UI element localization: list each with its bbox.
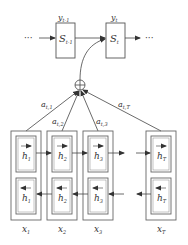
svg-text:h1: h1 xyxy=(22,193,31,204)
decoder: ··· St-1 yt-1 St yt ··· xyxy=(24,13,154,58)
input-label: xT xyxy=(157,224,166,235)
prev-output-label: yt-1 xyxy=(57,13,69,23)
svg-text:h2: h2 xyxy=(58,193,67,204)
encoder-column-T: hT hT xT xyxy=(146,131,176,235)
svg-text:hT: hT xyxy=(157,193,167,204)
sum-node xyxy=(75,80,85,90)
weight-label-1: at,1 xyxy=(41,100,53,110)
cur-output-label: yt xyxy=(110,13,119,23)
weight-label-3: at,3 xyxy=(96,117,108,127)
attention-diagram: ··· St-1 yt-1 St yt ··· at,1 at,2 at,3 a… xyxy=(0,0,188,245)
ellipsis-right: ··· xyxy=(145,33,154,43)
cur-state-label: St xyxy=(110,33,120,45)
weight-arrow-T xyxy=(83,90,161,131)
input-label: x3 xyxy=(94,224,102,235)
weight-label-2: at,2 xyxy=(52,117,64,127)
attention-weights: at,1 at,2 at,3 at,T xyxy=(26,90,161,131)
svg-text:h1: h1 xyxy=(22,151,31,162)
encoder-column-2: h2 h2 x2 xyxy=(47,131,77,235)
svg-text:h3: h3 xyxy=(94,193,103,204)
context-vector-arrow xyxy=(80,39,105,80)
input-label: x2 xyxy=(58,224,66,235)
prev-state-label: St-1 xyxy=(59,33,73,45)
ellipsis-left: ··· xyxy=(24,33,33,43)
encoder-column-3: h3 h3 x3 xyxy=(83,131,113,235)
svg-text:h2: h2 xyxy=(58,151,67,162)
svg-text:h3: h3 xyxy=(94,151,103,162)
input-label: x1 xyxy=(22,224,30,235)
encoder-column-1: h1 h1 x1 xyxy=(11,131,41,235)
weight-label-T: at,T xyxy=(118,100,130,110)
svg-text:hT: hT xyxy=(157,151,167,162)
encoder: h1 h1 x1 h2 h2 x2 h3 xyxy=(11,131,176,235)
